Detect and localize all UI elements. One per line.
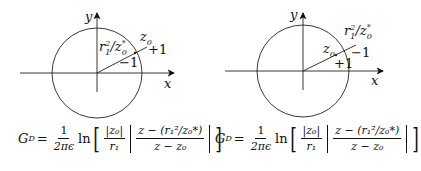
diagram-left: y x z0 +1 r21/z*0 −1 GD = 12πϵ ln [ |z₀|… (0, 0, 201, 171)
image-charge: −1 (119, 56, 138, 69)
abs-fraction: |z₀|r₁ (104, 124, 126, 153)
left-bracket: [ (290, 125, 297, 153)
formula-lhs-sub: D (28, 134, 34, 143)
main-fraction: z − (r₁²/z₀*)z − z₀ (136, 124, 204, 153)
abs-bar-left (130, 125, 131, 153)
ln: ln (275, 131, 288, 146)
abs-bar-right (406, 125, 407, 153)
x-axis-label: x (164, 77, 171, 90)
abs-bar-left (327, 125, 328, 153)
ln: ln (78, 131, 91, 146)
image-label: r21/z*0 (344, 24, 372, 41)
y-axis-label: y (290, 8, 297, 21)
image-charge: −1 (351, 46, 370, 59)
diagram-right: y x z0 +1 r21/z*0 −1 GD = 12πϵ ln [ |z₀|… (201, 0, 402, 171)
image-point (134, 52, 136, 54)
main-fraction: z − (r₁²/z₀*)z − z₀ (333, 124, 401, 153)
coef-fraction: 12πϵ (249, 124, 273, 153)
formula-eq: = (37, 131, 48, 146)
coef-fraction: 12πϵ (52, 124, 76, 153)
greens-function-formula-left: GD = 12πϵ ln [ |z₀|r₁ z − (r₁²/z₀*)z − z… (18, 124, 224, 153)
source-charge: +1 (148, 43, 167, 56)
y-axis-label: y (85, 10, 92, 23)
formula-eq: = (234, 131, 245, 146)
greens-function-formula-right: GD = 12πϵ ln [ |z₀|r₁ z − (r₁²/z₀*)z − z… (215, 124, 421, 153)
formula-lhs: G (215, 131, 225, 146)
abs-fraction: |z₀|r₁ (301, 124, 323, 153)
left-bracket: [ (93, 125, 100, 153)
formula-lhs: G (18, 131, 28, 146)
right-bracket: ] (412, 125, 419, 153)
formula-lhs-sub: D (225, 134, 231, 143)
x-axis-label: x (371, 74, 378, 87)
